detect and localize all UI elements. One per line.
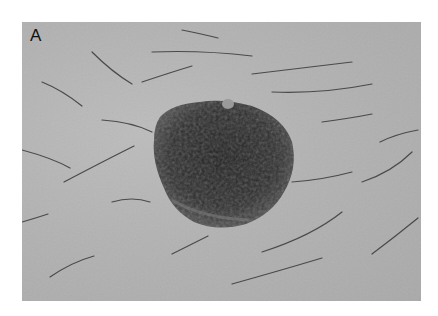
clinical-photo: A (22, 22, 421, 301)
panel-label: A (30, 26, 41, 46)
photo-content (22, 22, 421, 301)
